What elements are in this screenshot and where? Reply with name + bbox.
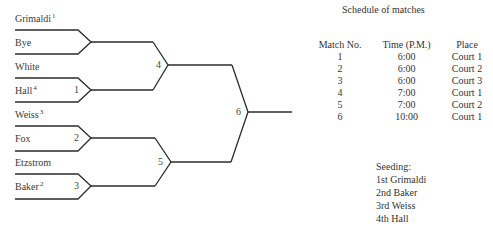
match-number-6: 6 [236, 107, 241, 117]
table-row: 3 6:00 Court 3 [308, 75, 493, 87]
schedule-header-row: Match No. Time (P.M.) Place [308, 38, 493, 51]
cell-time: 6:00 [372, 63, 441, 75]
entrant-name: Hall [15, 85, 32, 96]
cell-match-no: 2 [308, 63, 372, 75]
entrant-white: White [15, 62, 39, 72]
cell-time: 6:00 [372, 51, 441, 63]
seeding-item: 2nd Baker [376, 186, 426, 199]
table-row: 5 7:00 Court 2 [308, 99, 493, 111]
match-number-4: 4 [156, 60, 161, 70]
entrant-bye: Bye [15, 38, 31, 48]
entrant-name: Grimaldi [15, 13, 51, 24]
col-header-match-no: Match No. [308, 38, 372, 51]
col-header-time: Time (P.M.) [372, 38, 441, 51]
entrant-name: White [15, 61, 39, 72]
cell-place: Court 3 [441, 75, 493, 87]
cell-time: 10:00 [372, 111, 441, 123]
entrant-weiss: Weiss3 [15, 110, 43, 120]
match-number-1: 1 [74, 85, 79, 95]
entrant-hall: Hall4 [15, 86, 37, 96]
cell-match-no: 3 [308, 75, 372, 87]
entrant-baker: Baker2 [15, 182, 43, 192]
entrant-grimaldi: Grimaldi1 [15, 14, 56, 24]
cell-place: Court 1 [441, 51, 493, 63]
seeding-title: Seeding: [376, 160, 426, 173]
cell-match-no: 4 [308, 87, 372, 99]
entrant-name: Fox [15, 133, 31, 144]
cell-time: 7:00 [372, 99, 441, 111]
schedule-table: Match No. Time (P.M.) Place 1 6:00 Court… [308, 38, 493, 123]
table-row: 2 6:00 Court 2 [308, 63, 493, 75]
schedule-title: Schedule of matches [342, 4, 425, 15]
seed-superscript: 2 [40, 180, 44, 188]
cell-place: Court 1 [441, 111, 493, 123]
cell-place: Court 2 [441, 99, 493, 111]
seeding-item: 1st Grimaldi [376, 173, 426, 186]
entrant-name: Baker [15, 181, 39, 192]
table-row: 6 10:00 Court 1 [308, 111, 493, 123]
match-number-5: 5 [158, 157, 163, 167]
cell-match-no: 1 [308, 51, 372, 63]
cell-place: Court 1 [441, 87, 493, 99]
seeding-item: 3rd Weiss [376, 199, 426, 212]
seed-superscript: 1 [52, 12, 56, 20]
seed-superscript: 3 [40, 108, 44, 116]
match-number-2: 2 [74, 133, 79, 143]
table-row: 4 7:00 Court 1 [308, 87, 493, 99]
col-header-place: Place [441, 38, 493, 51]
cell-match-no: 5 [308, 99, 372, 111]
seed-superscript: 4 [33, 84, 37, 92]
seeding-list: Seeding: 1st Grimaldi 2nd Baker 3rd Weis… [376, 160, 426, 225]
table-row: 1 6:00 Court 1 [308, 51, 493, 63]
seeding-item: 4th Hall [376, 212, 426, 225]
entrant-name: Etzstrom [15, 157, 51, 168]
entrant-name: Bye [15, 37, 31, 48]
cell-time: 7:00 [372, 87, 441, 99]
entrant-name: Weiss [15, 109, 39, 120]
entrant-etzstrom: Etzstrom [15, 158, 51, 168]
match-number-3: 3 [74, 181, 79, 191]
entrant-fox: Fox [15, 134, 31, 144]
cell-time: 6:00 [372, 75, 441, 87]
cell-place: Court 2 [441, 63, 493, 75]
cell-match-no: 6 [308, 111, 372, 123]
